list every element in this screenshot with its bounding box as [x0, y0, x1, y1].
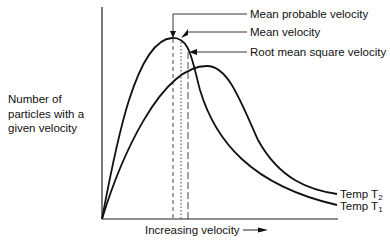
y-label-line-3: given velocity	[8, 121, 84, 136]
leader-mean-probable	[173, 14, 247, 33]
legend-temp-t1: Temp T1	[340, 199, 383, 217]
y-label-line-2: particles with a	[8, 107, 84, 122]
annotation-rms: Root mean square velocity	[250, 45, 386, 59]
x-arrow-icon	[258, 228, 268, 233]
curve-temp-t2	[102, 66, 337, 219]
annotation-mean-probable: Mean probable velocity	[250, 7, 368, 21]
arrow-mean-icon	[181, 29, 188, 38]
curve-temp-t1	[102, 38, 337, 219]
y-label-line-1: Number of	[8, 92, 84, 107]
y-axis-label: Number of particles with a given velocit…	[8, 92, 84, 136]
x-axis-label: Increasing velocity	[145, 223, 240, 237]
arrow-mean-probable-icon	[170, 31, 176, 38]
annotation-mean: Mean velocity	[250, 25, 320, 39]
